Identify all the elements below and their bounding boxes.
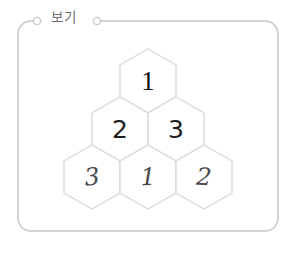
hex-cell-r2c1[interactable]: 1 [119,144,177,210]
hex-value-r2c2: 2 [173,142,235,212]
hex-cell-r2c0[interactable]: 3 [63,144,121,210]
hex-value-r2c0: 3 [60,141,125,213]
hex-pyramid: 1 2 3 3 [17,20,279,232]
example-box: 보기 1 2 3 [17,20,279,232]
hex-value-r2c1: 1 [118,143,178,211]
hex-cell-r2c2[interactable]: 2 [175,144,233,210]
worksheet-canvas: 보기 1 2 3 [0,0,299,254]
